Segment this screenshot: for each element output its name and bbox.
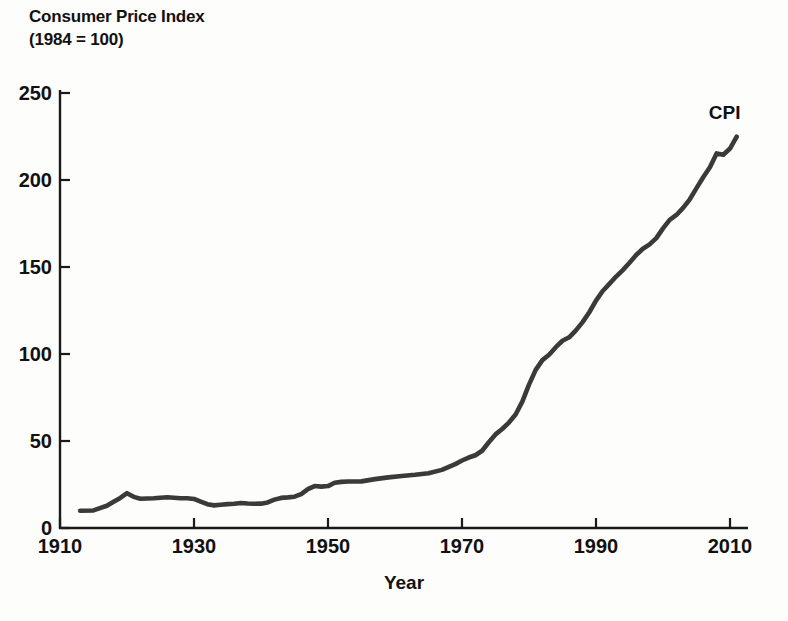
x-tick-label-1950: 1950: [306, 535, 351, 557]
y-tick-group: [60, 93, 70, 528]
chart-subtitle: (1984 = 100): [29, 30, 123, 49]
x-tick-label-2010: 2010: [708, 535, 753, 557]
x-tick-group: [60, 518, 730, 528]
cpi-line-chart: Consumer Price Index (1984 = 100) 0 50 1…: [0, 0, 788, 621]
y-tick-label-250: 250: [19, 82, 52, 104]
y-tick-label-150: 150: [19, 256, 52, 278]
x-axis-label: Year: [384, 572, 425, 593]
y-tick-label-200: 200: [19, 169, 52, 191]
y-tick-label-50: 50: [30, 430, 52, 452]
x-tick-label-1910: 1910: [38, 535, 83, 557]
chart-title: Consumer Price Index: [29, 7, 205, 26]
x-axis: 1910 1930 1950 1970 1990 2010 Year: [38, 518, 753, 593]
x-tick-label-1970: 1970: [440, 535, 485, 557]
cpi-series-label: CPI: [709, 102, 741, 123]
cpi-data-line: [80, 137, 737, 511]
x-tick-label-1990: 1990: [574, 535, 619, 557]
x-tick-label-1930: 1930: [172, 535, 217, 557]
y-tick-label-100: 100: [19, 343, 52, 365]
y-axis: 0 50 100 150 200 250: [19, 82, 70, 539]
